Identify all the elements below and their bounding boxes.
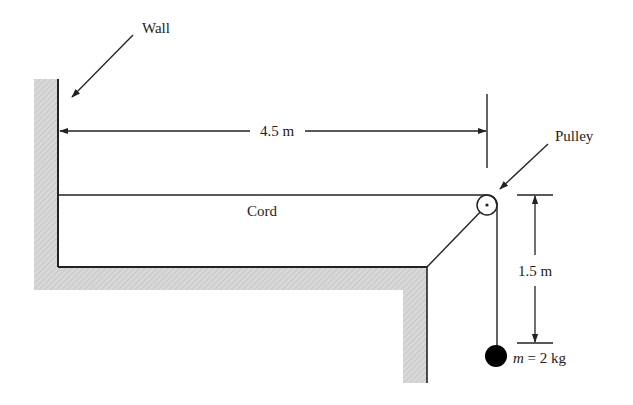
pulley-support — [427, 205, 487, 267]
pulley-label: Pulley — [555, 128, 594, 144]
wall-pointer-arrow — [72, 35, 133, 97]
vertical-distance-label: 1.5 m — [518, 263, 553, 279]
wall-hatch — [34, 79, 427, 383]
horizontal-distance-label: 4.5 m — [260, 123, 295, 139]
mass-ball — [485, 345, 507, 367]
pulley — [477, 195, 497, 215]
pulley-axle — [485, 203, 488, 206]
wall-callout: Wall — [72, 20, 170, 97]
wall-label: Wall — [142, 20, 170, 36]
pulley-callout: Pulley — [500, 128, 594, 189]
mass-label: m = 2 kg — [513, 350, 567, 366]
vertical-dimension: 1.5 m — [517, 195, 553, 343]
wall-structure — [34, 79, 427, 383]
mass-symbol: m — [513, 350, 524, 366]
mass-value: = 2 kg — [524, 350, 567, 366]
pulley-pointer-arrow — [500, 144, 548, 189]
cord-label: Cord — [247, 203, 278, 219]
horizontal-dimension: 4.5 m — [60, 94, 487, 168]
pulley-diagram: 4.5 m 1.5 m Wall Pulley Cord m = 2 kg — [0, 0, 633, 405]
